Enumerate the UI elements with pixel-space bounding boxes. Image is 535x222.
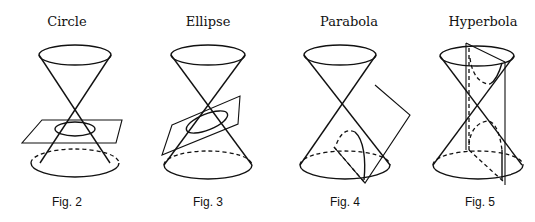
ellipse-caption: Fig. 3 [148,195,268,209]
conic-sections-diagram [0,0,535,222]
ellipse-figure [162,45,252,179]
hyperbola-caption: Fig. 5 [420,195,535,209]
parabola-caption: Fig. 4 [285,195,405,209]
circle-figure [22,45,122,177]
parabola-title: Parabola [289,14,409,29]
hyperbola-title: Hyperbola [423,14,535,29]
circle-caption: Fig. 2 [7,195,127,209]
hyperbola-figure [433,43,523,185]
circle-title: Circle [7,14,127,29]
ellipse-title: Ellipse [148,14,268,29]
parabola-figure [300,45,410,183]
